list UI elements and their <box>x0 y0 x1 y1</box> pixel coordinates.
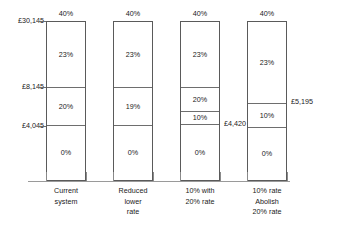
bar-segment-label: 23% <box>193 51 208 58</box>
x-axis-tick-7 <box>287 172 288 181</box>
bar-10pct-rate-abolish-20pct-rate: 23% 10% 0% <box>247 21 287 181</box>
bar-segment-10: 10% <box>248 103 286 127</box>
bar-segment-label: 10% <box>260 112 275 119</box>
bar-top-label-2: 40% <box>180 10 220 17</box>
bar-10pct-with-20pct-rate: 23% 20% 10% 0% <box>180 21 220 181</box>
x-axis-tick-4 <box>180 172 181 181</box>
bar-segment-23: 23% <box>181 22 219 87</box>
bar-segment-20: 20% <box>47 87 85 125</box>
x-axis-tick-0 <box>46 172 47 181</box>
bar-segment-23: 23% <box>47 22 85 87</box>
bar-segment-label: 20% <box>193 96 208 103</box>
x-axis-line <box>28 181 290 182</box>
bar-top-label-1: 40% <box>113 10 153 17</box>
x-axis-tick-5 <box>220 172 221 181</box>
bar-segment-label: 23% <box>260 59 275 66</box>
category-label-10pct-rate-abolish-20pct-rate: 10% rate Abolish 20% rate <box>231 186 303 218</box>
bar-segment-0: 0% <box>114 125 152 180</box>
bar-reduced-lower-rate: 23% 19% 0% <box>113 21 153 181</box>
bar-segment-label: 0% <box>61 149 72 156</box>
bar-segment-label: 0% <box>128 149 139 156</box>
bar-segment-23: 23% <box>248 22 286 103</box>
bar-segment-label: 20% <box>59 103 74 110</box>
category-label-10pct-with-20pct-rate: 10% with 20% rate <box>164 186 236 207</box>
callout-label-5195: £5,195 <box>291 98 335 105</box>
bar-segment-label: 0% <box>195 149 206 156</box>
bar-segment-0: 0% <box>47 125 85 180</box>
bar-segment-label: 23% <box>126 51 141 58</box>
x-axis-tick-2 <box>113 172 114 181</box>
x-axis-tick-3 <box>153 172 154 181</box>
bar-top-label-0: 40% <box>46 10 86 17</box>
category-label-reduced-lower-rate: Reduced lower rate <box>97 186 169 218</box>
bar-segment-19: 19% <box>114 87 152 125</box>
bar-segment-20: 20% <box>181 87 219 111</box>
plot-area: 40% 40% 40% 40% £30,145 £8,145 £4,045 23… <box>0 0 337 227</box>
x-axis-tick-6 <box>247 172 248 181</box>
bar-segment-10: 10% <box>181 111 219 124</box>
bar-segment-label: 23% <box>59 51 74 58</box>
bar-current-system: 23% 20% 0% <box>46 21 86 181</box>
bar-segment-23: 23% <box>114 22 152 87</box>
bar-top-label-3: 40% <box>247 10 287 17</box>
bar-segment-label: 19% <box>126 103 141 110</box>
category-label-current-system: Current system <box>30 186 102 207</box>
bar-segment-0: 0% <box>181 124 219 180</box>
tax-band-chart: 40% 40% 40% 40% £30,145 £8,145 £4,045 23… <box>0 0 337 227</box>
bar-segment-label: 10% <box>193 114 208 121</box>
bar-segment-0: 0% <box>248 127 286 180</box>
x-axis-tick-1 <box>86 172 87 181</box>
bar-segment-label: 0% <box>262 150 273 157</box>
